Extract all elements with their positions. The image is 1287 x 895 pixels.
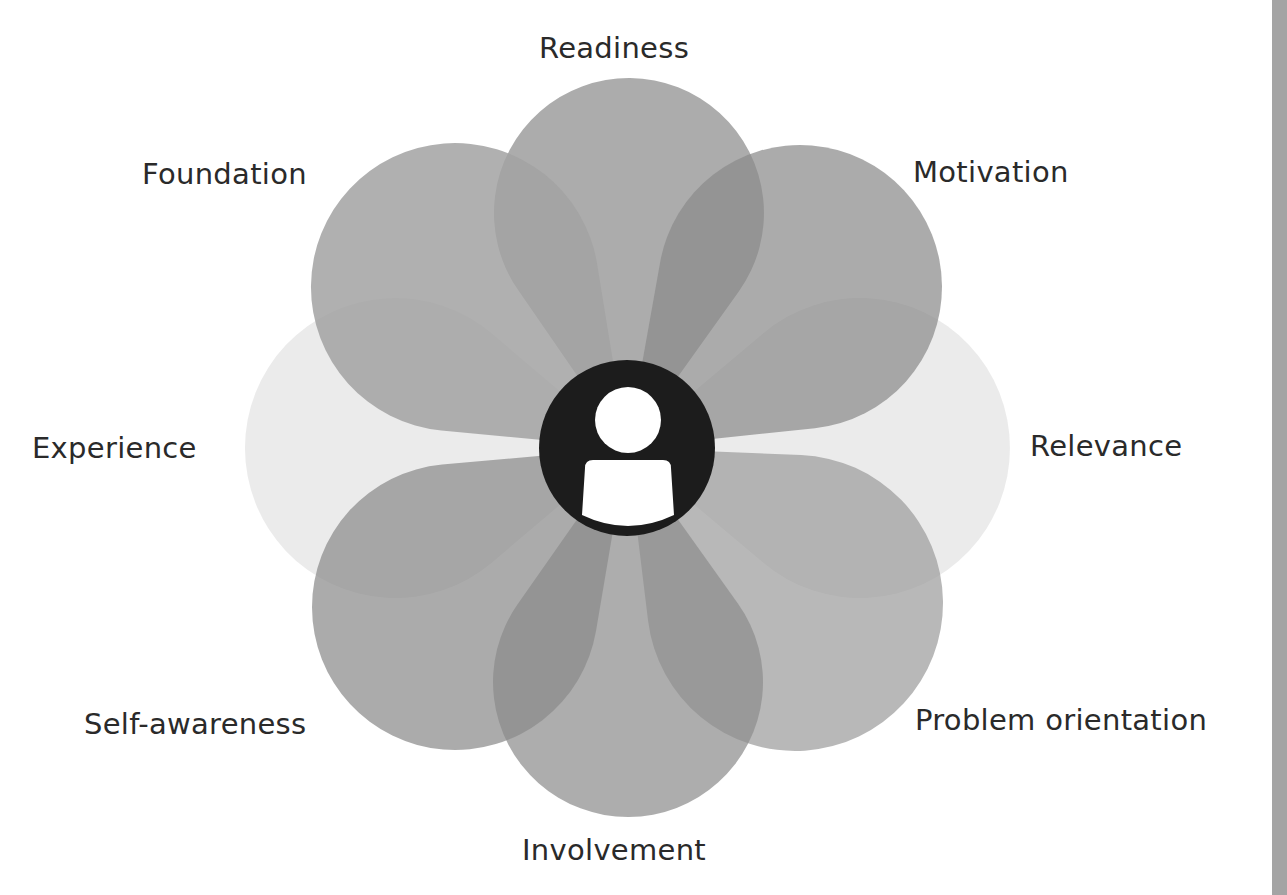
label-experience: Experience (32, 434, 197, 463)
center-hub (539, 360, 715, 536)
label-relevance: Relevance (1030, 432, 1182, 461)
label-self-awareness: Self-awareness (84, 710, 306, 739)
label-motivation: Motivation (913, 158, 1069, 187)
label-involvement: Involvement (522, 836, 706, 865)
right-edge-bar (1272, 0, 1287, 895)
label-foundation: Foundation (142, 160, 307, 189)
label-problem-orientation: Problem orientation (915, 706, 1207, 735)
label-readiness: Readiness (539, 34, 689, 63)
